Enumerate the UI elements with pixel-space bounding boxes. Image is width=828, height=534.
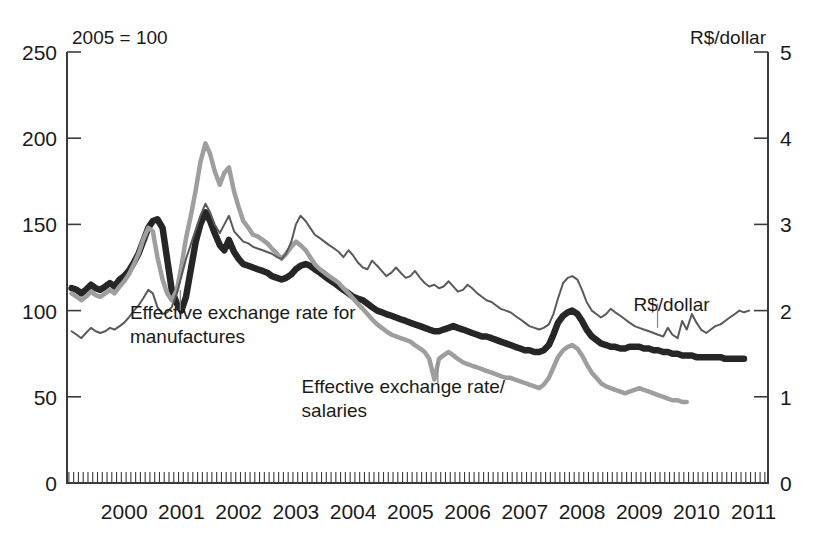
x-axis-tick-label: 2007 [501,500,548,523]
right-axis-tick-label: 4 [780,127,792,150]
x-axis-tick-label: 2011 [731,500,776,523]
annot-salaries-line2: salaries [302,400,367,421]
axes-layer [67,52,768,483]
right-axis-tick-label: 2 [780,300,792,323]
line-chart: 0501001502002500123452000200120022003200… [0,0,828,534]
left-axis-tick-label: 150 [22,213,57,236]
left-axis-tick-label: 50 [34,386,57,409]
right-axis-tick-label: 5 [780,41,792,64]
x-axis-tick-label: 2009 [616,500,663,523]
x-axis-tick-label: 2010 [673,500,720,523]
x-axis-tick-label: 2001 [158,500,205,523]
annot-salaries: Effective exchange rate/salaries [302,376,506,421]
x-axis-tick-label: 2006 [444,500,491,523]
annot-rsdollar-line1: R$/dollar [634,294,711,315]
right-axis-tick-label: 3 [780,213,792,236]
left-axis-tick-label: 200 [22,127,57,150]
annot-salaries-line1: Effective exchange rate/ [302,376,506,397]
left-axis-tick-label: 0 [45,472,57,495]
right-axis-tick-label: 0 [780,472,792,495]
annot-manufactures: Effective exchange rate formanufactures [130,302,356,347]
annot-rsdollar: R$/dollar [634,294,711,315]
left-axis-tick-label: 100 [22,300,57,323]
annot-manufactures-line2: manufactures [130,326,245,347]
right-axis-title: R$/dollar [690,27,767,48]
x-axis-tick-label: 2002 [215,500,262,523]
series-line-real-effective-exchange-rate-mid [72,143,687,402]
chart-figure: 0501001502002500123452000200120022003200… [0,0,828,534]
x-axis-tick-label: 2003 [273,500,320,523]
x-axis-tick-label: 2000 [101,500,148,523]
annot-manufactures-line1: Effective exchange rate for [130,302,356,323]
labels-layer: 0501001502002500123452000200120022003200… [22,27,792,523]
right-axis-tick-label: 1 [780,386,792,409]
x-axis-tick-label: 2005 [387,500,434,523]
x-axis-tick-label: 2004 [330,500,377,523]
left-axis-tick-label: 250 [22,41,57,64]
x-axis-tick-label: 2008 [559,500,606,523]
series-layer [72,143,750,402]
plot-frame [67,52,768,483]
left-axis-title: 2005 = 100 [72,27,168,48]
